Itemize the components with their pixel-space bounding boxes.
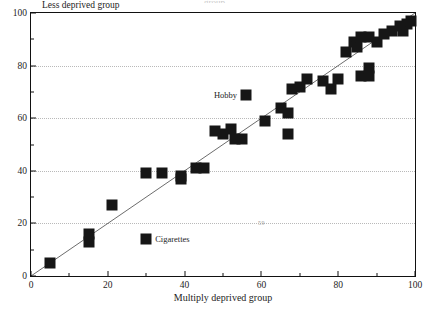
data-point [352, 42, 363, 53]
x-tick-label-60: 60 [257, 280, 267, 290]
data-point [241, 89, 252, 100]
x-tick-mark-80 [338, 271, 339, 276]
scatter-plot-figure: group Less deprived group HobbyCigarette… [0, 0, 429, 309]
x-tick-label-20: 20 [103, 280, 113, 290]
y-tick-mark-100 [31, 13, 36, 14]
y-axis-caption: Less deprived group [42, 0, 120, 10]
x-tick-label-40: 40 [180, 280, 190, 290]
y-tick-mark-80 [31, 65, 36, 66]
x-tick-label-80: 80 [333, 280, 343, 290]
y-minor-tick-70 [31, 91, 34, 92]
x-tick-mark-0 [31, 271, 32, 276]
x-tick-mark-60 [261, 271, 262, 276]
y-tick-label-100: 100 [13, 8, 27, 18]
x-tick-mark-100 [415, 271, 416, 276]
data-point [198, 163, 209, 174]
y-tick-mark-60 [31, 118, 36, 119]
x-tick-label-100: 100 [408, 280, 422, 290]
annotation-cigarettes: Cigarettes [155, 234, 189, 244]
x-tick-mark-40 [184, 271, 185, 276]
x-minor-tick-10 [69, 273, 70, 276]
y-tick-mark-40 [31, 170, 36, 171]
y-tick-mark-0 [31, 276, 36, 277]
data-point [363, 71, 374, 82]
x-minor-tick-70 [299, 273, 300, 276]
page-number-artifact: 59 [258, 220, 265, 226]
y-minor-tick-50 [31, 144, 34, 145]
data-point [106, 199, 117, 210]
data-point [333, 73, 344, 84]
data-point [325, 84, 336, 95]
data-point [406, 15, 417, 26]
y-minor-tick-30 [31, 197, 34, 198]
y-tick-label-80: 80 [18, 61, 28, 71]
x-minor-tick-30 [146, 273, 147, 276]
x-minor-tick-90 [376, 273, 377, 276]
x-axis-label: Multiply deprived group [30, 292, 416, 303]
annotation-hobby: Hobby [214, 90, 237, 100]
y-tick-label-0: 0 [22, 271, 27, 281]
x-minor-tick-50 [223, 273, 224, 276]
y-tick-mark-20 [31, 223, 36, 224]
plot-area: HobbyCigarettes59 0204060801000204060801… [30, 12, 416, 277]
data-point [225, 123, 236, 134]
x-tick-mark-20 [107, 271, 108, 276]
data-point [237, 134, 248, 145]
y-tick-label-60: 60 [18, 113, 28, 123]
y-minor-tick-90 [31, 39, 34, 40]
data-point [83, 236, 94, 247]
data-point [283, 107, 294, 118]
y-tick-label-40: 40 [18, 166, 28, 176]
y-tick-label-20: 20 [18, 218, 28, 228]
data-point [141, 168, 152, 179]
data-point [156, 168, 167, 179]
data-point [283, 128, 294, 139]
data-point [141, 234, 152, 245]
y-minor-tick-10 [31, 249, 34, 250]
data-point [45, 257, 56, 268]
x-tick-label-0: 0 [29, 280, 34, 290]
data-point [302, 73, 313, 84]
data-point [340, 47, 351, 58]
data-point [260, 115, 271, 126]
data-point [175, 173, 186, 184]
